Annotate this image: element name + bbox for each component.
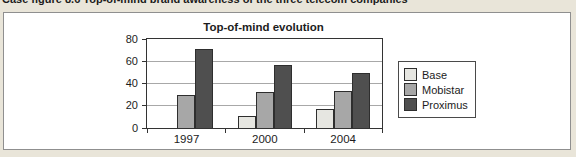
y-tick-mark: [142, 61, 146, 62]
bar-mobistar-2000: [256, 92, 274, 128]
x-tick-mark: [304, 129, 305, 133]
legend-item-proximus: Proximus: [404, 98, 468, 111]
y-tick-label: 40: [108, 78, 138, 89]
legend-swatch-mobistar: [404, 83, 417, 96]
plot-area: [146, 38, 383, 129]
legend-label: Proximus: [422, 99, 468, 111]
legend-item-base: Base: [404, 68, 468, 81]
y-tick-mark: [142, 83, 146, 84]
y-tick-mark: [142, 39, 146, 40]
figure-caption: Case figure 8.6 Top-of-mind brand awaren…: [2, 0, 408, 5]
bar-mobistar-1997: [177, 95, 195, 128]
y-tick-label: 80: [108, 34, 138, 45]
legend-swatch-proximus: [404, 98, 417, 111]
y-tick-label: 0: [108, 123, 138, 134]
y-tick-mark: [142, 105, 146, 106]
x-tick-mark: [382, 129, 383, 133]
gridline: [147, 83, 382, 84]
x-category-label: 1997: [147, 133, 226, 145]
y-tick-mark: [142, 128, 146, 129]
y-tick-label: 60: [108, 56, 138, 67]
bar-base-2004: [316, 109, 334, 128]
legend-label: Mobistar: [422, 84, 464, 96]
legend-swatch-base: [404, 68, 417, 81]
figure-caption-strip: Case figure 8.6 Top-of-mind brand awaren…: [0, 0, 576, 6]
bar-mobistar-2004: [334, 91, 352, 128]
legend-item-mobistar: Mobistar: [404, 83, 468, 96]
x-category-label: 2004: [304, 133, 383, 145]
legend: BaseMobistarProximus: [398, 61, 476, 118]
bar-proximus-2000: [274, 65, 292, 128]
bar-proximus-2004: [352, 73, 370, 128]
gridline: [147, 61, 382, 62]
y-tick-label: 20: [108, 100, 138, 111]
x-tick-mark: [225, 129, 226, 133]
bar-proximus-1997: [195, 49, 213, 128]
chart-title: Top-of-mind evolution: [146, 21, 381, 33]
x-tick-mark: [147, 129, 148, 133]
chart-panel: Top-of-mind evolution 020406080 19972000…: [3, 12, 571, 150]
x-category-label: 2000: [225, 133, 304, 145]
bar-base-2000: [238, 116, 256, 128]
legend-label: Base: [422, 69, 447, 81]
